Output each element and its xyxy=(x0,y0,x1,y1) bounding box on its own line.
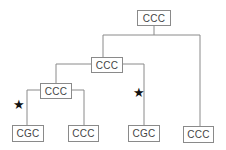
leaf-node-2: CCC xyxy=(68,125,99,142)
leaf-node-1: CGC xyxy=(12,125,44,142)
leaf-node-3: CGC xyxy=(128,125,160,142)
star-icon: ★ xyxy=(13,98,25,111)
node-root: CCC xyxy=(137,10,171,26)
leaf-node-4: CCC xyxy=(183,126,214,143)
node-level2: CCC xyxy=(40,83,72,99)
star-icon: ★ xyxy=(133,86,145,99)
node-level1: CCC xyxy=(91,57,123,73)
